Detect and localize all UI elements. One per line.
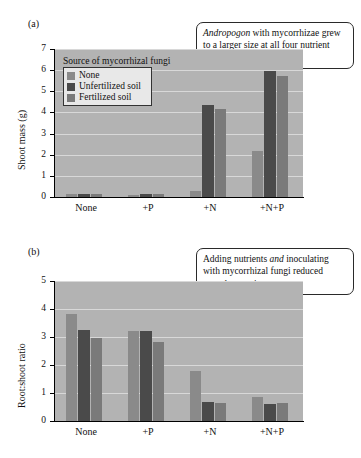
y-axis-tick (50, 134, 54, 135)
bar (264, 404, 276, 421)
y-axis-tick (50, 91, 54, 92)
x-axis-tick-label: +N+P (241, 427, 303, 437)
y-axis-tick-label: 4 (28, 107, 46, 117)
y-axis-tick-label: 1 (28, 388, 46, 398)
y-axis-tick-label: 1 (28, 171, 46, 181)
y-axis-tick-label: 6 (28, 65, 46, 75)
y-axis-tick-label: 7 (28, 44, 46, 54)
y-axis-tick (50, 365, 54, 366)
y-axis-tick (50, 176, 54, 177)
legend-item-label: Unfertilized soil (79, 81, 141, 92)
legend-item: None (67, 70, 146, 81)
panel-b-callout-text-0: Adding nutrients (203, 254, 270, 264)
bar (91, 338, 103, 421)
legend-item: Unfertilized soil (67, 81, 146, 92)
legend-item-label: Fertilized soil (79, 92, 132, 103)
y-axis-tick (50, 393, 54, 394)
y-axis-tick (50, 112, 54, 113)
panel-a-callout-text-0: Andropogon (203, 28, 250, 38)
x-axis-tick-label: +N (179, 203, 241, 213)
legend-box: NoneUnfertilized soilFertilized soil (63, 67, 152, 106)
y-axis-line (54, 281, 55, 422)
y-axis-line (54, 49, 55, 198)
bar (78, 330, 90, 421)
x-axis-tick-label: +N (179, 427, 241, 437)
x-axis-tick-label: +P (117, 427, 179, 437)
bar (202, 402, 214, 421)
panel-a-y-axis-title: Shoot mass (g) (16, 110, 27, 170)
legend-item: Fertilized soil (67, 92, 146, 103)
panel-a-label: (a) (28, 18, 39, 29)
y-axis-tick (50, 281, 54, 282)
legend-swatch-icon (67, 94, 75, 102)
y-axis-tick-label: 5 (28, 86, 46, 96)
x-axis-tick-label: None (55, 203, 117, 213)
y-axis-tick-label: 0 (28, 192, 46, 202)
y-axis-tick-label: 3 (28, 332, 46, 342)
legend-title: Source of mycorrhizal fungi (63, 56, 170, 66)
y-axis-tick (50, 337, 54, 338)
y-axis-tick (50, 197, 54, 198)
y-axis-tick-label: 2 (28, 360, 46, 370)
bar (252, 151, 264, 198)
x-axis-tick-label: None (55, 427, 117, 437)
x-axis-tick-label: +P (117, 203, 179, 213)
panel-a: (a) Andropogon with mycorrhizae grew to … (0, 0, 361, 228)
bar (66, 314, 78, 421)
x-axis-line (54, 197, 304, 198)
bar (190, 371, 202, 421)
bar (128, 331, 140, 421)
x-axis-line (54, 421, 304, 422)
bar (277, 403, 289, 421)
y-axis-tick (50, 421, 54, 422)
bar (202, 105, 214, 197)
bar (140, 331, 152, 421)
y-axis-tick-label: 2 (28, 150, 46, 160)
bar (264, 71, 276, 197)
bar (215, 403, 227, 421)
gridline (55, 281, 303, 282)
x-axis-tick-label: +N+P (241, 203, 303, 213)
panel-b-label: (b) (28, 246, 40, 257)
y-axis-tick (50, 155, 54, 156)
bar (153, 342, 165, 421)
panel-b: (b) Adding nutrients and inoculating wit… (0, 228, 361, 458)
y-axis-tick (50, 309, 54, 310)
y-axis-tick (50, 49, 54, 50)
bar (277, 76, 289, 197)
bar (215, 109, 227, 197)
y-axis-tick (50, 70, 54, 71)
y-axis-tick-label: 0 (28, 416, 46, 426)
y-axis-tick-label: 4 (28, 304, 46, 314)
legend-item-label: None (79, 70, 100, 81)
legend-swatch-icon (67, 83, 75, 91)
y-axis-tick-label: 3 (28, 129, 46, 139)
bar (252, 397, 264, 421)
panel-b-plot-area (55, 281, 303, 421)
gridline (55, 49, 303, 50)
panel-b-y-axis-title: Root:shoot ratio (16, 343, 27, 408)
y-axis-tick-label: 5 (28, 276, 46, 286)
legend-swatch-icon (67, 72, 75, 80)
panel-b-callout-text-1: and (270, 254, 284, 264)
gridline (55, 309, 303, 310)
